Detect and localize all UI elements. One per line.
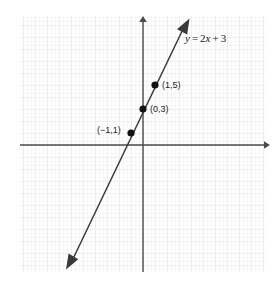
point-label-neg1-1: (−1,1) (97, 126, 121, 135)
data-point (151, 81, 158, 88)
equation-lhs: y (185, 32, 190, 44)
data-point (139, 105, 146, 112)
equation-label: y=2x+3 (185, 33, 226, 44)
coordinate-plane (0, 0, 278, 288)
equation-variable: x (206, 32, 211, 44)
equation-plus: + (213, 32, 219, 44)
point-label-1-5: (1,5) (162, 81, 181, 90)
graph-figure: y=2x+3 (1,5) (0,3) (−1,1) (0, 0, 278, 288)
equation-equals: = (192, 32, 198, 44)
data-point (127, 129, 134, 136)
equation-constant: 3 (221, 32, 227, 44)
point-label-0-3: (0,3) (150, 105, 169, 114)
